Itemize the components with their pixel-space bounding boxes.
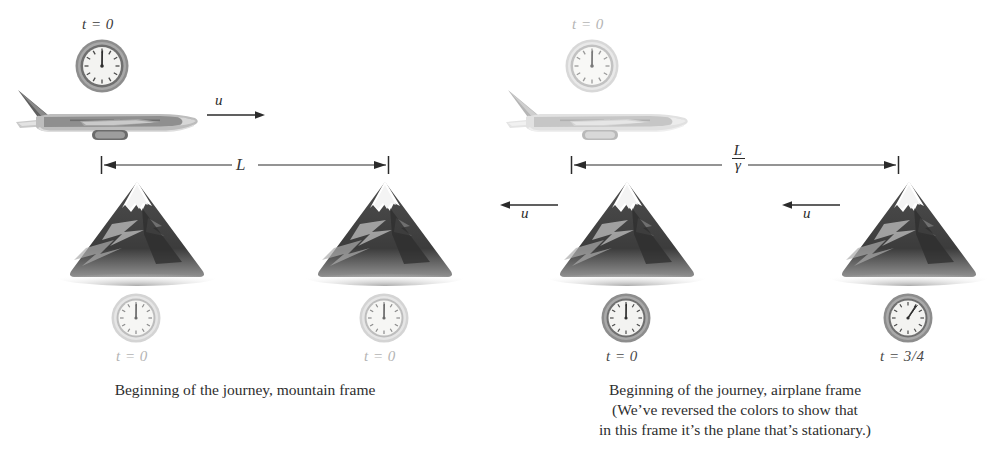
velocity-label-mountain-left: u: [521, 205, 529, 222]
mountain-clock-left: [600, 292, 652, 344]
velocity-label-mountain-right: u: [803, 205, 811, 222]
mountain-clock-label-right: t = 3/4: [880, 348, 924, 365]
mountain-left: [52, 178, 222, 288]
mountain-clock-label-right: t = 0: [364, 348, 396, 365]
airplane: [10, 86, 210, 142]
mountain-clock-left: [110, 292, 162, 344]
airplane: [500, 86, 700, 142]
panel-airplane-frame: t = 0: [490, 0, 980, 470]
mountain-clock-right: [358, 292, 410, 344]
caption-airplane-frame-line2: (We’ve reversed the colors to show that: [490, 400, 980, 420]
mountain-clock-label-left: t = 0: [116, 348, 148, 365]
mountain-right: [300, 178, 470, 288]
caption-airplane-frame-line3: in this frame it’s the plane that’s stat…: [490, 420, 980, 440]
length-numerator: L: [734, 142, 742, 158]
top-clock-label: t = 0: [572, 16, 604, 33]
length-label: L: [236, 155, 246, 175]
length-denominator: γ: [726, 159, 750, 172]
mountain-left: [542, 178, 712, 288]
mountain-clock-right: [882, 292, 934, 344]
panel-mountain-frame: t = 0: [0, 0, 490, 470]
caption-airplane-frame-line1: Beginning of the journey, airplane frame: [490, 380, 980, 400]
top-clock-label: t = 0: [82, 16, 114, 33]
velocity-label-plane: u: [215, 92, 223, 109]
caption-mountain-frame-line1: Beginning of the journey, mountain frame: [0, 380, 490, 400]
mountain-right: [824, 178, 991, 288]
mountain-clock-label-left: t = 0: [606, 348, 638, 365]
length-label-fraction: L γ: [726, 144, 750, 172]
